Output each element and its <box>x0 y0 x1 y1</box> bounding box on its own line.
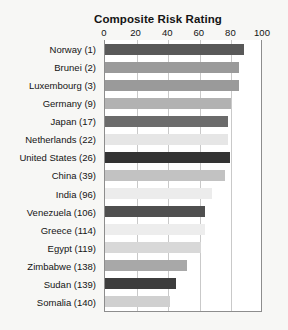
x-tick-80: 80 <box>225 27 236 39</box>
category-label: Sudan (139) <box>0 279 100 290</box>
bar-row <box>105 170 261 181</box>
bar-row <box>105 152 261 163</box>
category-label: Egypt (119) <box>0 243 100 254</box>
bar <box>105 152 230 163</box>
bar-row <box>105 188 261 199</box>
bar <box>105 206 205 217</box>
bar <box>105 260 187 271</box>
category-label: China (39) <box>0 170 100 181</box>
bar-row <box>105 98 261 109</box>
category-label: Netherlands (22) <box>0 134 100 145</box>
x-tick-100: 100 <box>254 27 270 39</box>
bar-row <box>105 80 261 91</box>
bar-rows <box>105 40 261 311</box>
category-label: Japan (17) <box>0 116 100 127</box>
x-tick-60: 60 <box>194 27 205 39</box>
category-label: Somalia (140) <box>0 297 100 308</box>
category-label: Brunei (2) <box>0 62 100 73</box>
bar <box>105 116 228 127</box>
bar-row <box>105 224 261 235</box>
bar <box>105 80 239 91</box>
category-label: Norway (1) <box>0 44 100 55</box>
category-label: Luxembourg (3) <box>0 80 100 91</box>
bar <box>105 134 228 145</box>
bar-row <box>105 62 261 73</box>
bar-row <box>105 206 261 217</box>
composite-risk-rating-chart: Composite Risk Rating 020406080100 Norwa… <box>0 0 288 330</box>
bar-row <box>105 116 261 127</box>
bar <box>105 224 205 235</box>
category-label: Venezuela (106) <box>0 207 100 218</box>
x-axis-tick-labels: 020406080100 <box>104 27 262 39</box>
bar <box>105 188 212 199</box>
bar-row <box>105 44 261 55</box>
category-axis-labels: Norway (1)Brunei (2)Luxembourg (3)German… <box>0 40 100 312</box>
plot-area <box>104 40 262 312</box>
bar <box>105 296 170 307</box>
bar-row <box>105 296 261 307</box>
category-label: Germany (9) <box>0 98 100 109</box>
category-label: Greece (114) <box>0 225 100 236</box>
bar <box>105 242 201 253</box>
category-label: United States (26) <box>0 152 100 163</box>
bar <box>105 170 225 181</box>
bar <box>105 278 176 289</box>
chart-title: Composite Risk Rating <box>0 13 288 25</box>
cropped-header-text <box>0 0 288 10</box>
bar-row <box>105 242 261 253</box>
x-tick-40: 40 <box>162 27 173 39</box>
category-label: Zimbabwe (138) <box>0 261 100 272</box>
bar <box>105 98 231 109</box>
bar-row <box>105 260 261 271</box>
x-tick-20: 20 <box>130 27 141 39</box>
bar-row <box>105 134 261 145</box>
x-tick-0: 0 <box>101 27 106 39</box>
bar <box>105 62 239 73</box>
category-label: India (96) <box>0 189 100 200</box>
bar <box>105 44 244 55</box>
bar-row <box>105 278 261 289</box>
